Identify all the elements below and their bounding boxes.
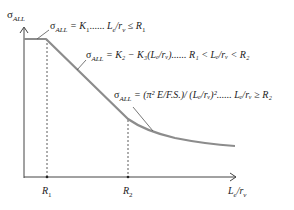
- r2-sub: 2: [129, 191, 133, 199]
- eq3-text: = (π² E/F.S.)/ (Lₑ/rᵥ)²...... Lₑ/rᵥ ≥ R₂: [131, 89, 271, 100]
- eq3-sigma-sub: ALL: [119, 95, 131, 103]
- x-axis-sub2: v: [243, 191, 246, 199]
- y-axis-label-sub: ALL: [13, 15, 25, 23]
- eq1-body: = K: [67, 20, 85, 31]
- r1-sub: 1: [48, 191, 52, 199]
- equation-1: σALL = K1...... Le/rv ≤ R1: [50, 21, 145, 34]
- r1-tick: [46, 176, 49, 179]
- equation-2: σALL = K₂ − K₃(Lₑ/rᵥ)...... R₁ < Lₑ/rᵥ <…: [86, 50, 249, 63]
- r2-label: R2: [123, 186, 133, 199]
- eq1-sigma-sub: ALL: [55, 26, 67, 34]
- diagram-canvas: [0, 0, 294, 210]
- eq2-text: = K₂ − K₃(Lₑ/rᵥ)...... R₁ < Lₑ/rᵥ < R₂: [103, 49, 249, 60]
- equation-3: σALL = (π² E/F.S.)/ (Lₑ/rᵥ)²...... Lₑ/rᵥ…: [114, 90, 272, 103]
- eq1-dots: ......: [89, 20, 107, 31]
- r2-tick: [127, 176, 130, 179]
- eq2-leader: [77, 60, 86, 70]
- eq1-leader: [37, 30, 49, 39]
- eq1-r-sub: 1: [142, 26, 146, 34]
- eq1-rel: ≤ R: [125, 20, 142, 31]
- y-axis-label: σALL: [7, 9, 25, 23]
- eq2-sigma-sub: ALL: [91, 55, 103, 63]
- x-axis-label: Le/rv: [228, 186, 246, 199]
- r1-label: R1: [42, 186, 52, 199]
